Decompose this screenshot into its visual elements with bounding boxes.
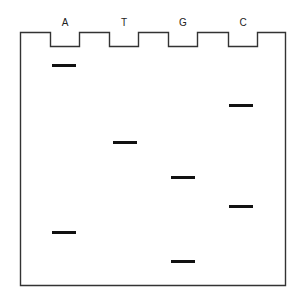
band-t-1	[113, 141, 137, 144]
lane-label-g: G	[168, 17, 198, 29]
band-g-2	[171, 260, 195, 263]
band-c-2	[229, 205, 253, 208]
band-a-2	[52, 231, 76, 234]
lane-label-a: A	[50, 17, 80, 29]
band-g-1	[171, 176, 195, 179]
lane-label-c: C	[228, 17, 258, 29]
band-c-1	[229, 104, 253, 107]
band-a-1	[52, 64, 76, 67]
gel-outline	[0, 0, 301, 303]
lane-label-t: T	[109, 17, 139, 29]
